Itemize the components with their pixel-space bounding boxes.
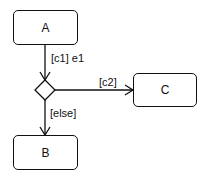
choice-diamond	[35, 80, 55, 100]
transition-label-c2: [c2]	[99, 76, 117, 88]
state-c-label: C	[161, 83, 170, 97]
transition-label-c1-e1: [c1] e1	[51, 52, 84, 64]
transition-label-else: [else]	[50, 107, 76, 119]
state-b-label: B	[41, 146, 49, 160]
state-a-label: A	[41, 21, 49, 35]
state-a: A	[13, 10, 78, 45]
state-b: B	[13, 135, 78, 170]
state-c: C	[133, 73, 197, 107]
